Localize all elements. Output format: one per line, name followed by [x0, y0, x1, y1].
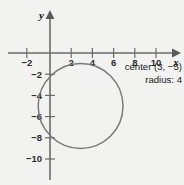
y-axis-arrow-icon	[46, 10, 55, 19]
y-axis-label: y	[37, 9, 44, 21]
x-tick-label-2: 2	[69, 57, 74, 68]
y-tick-label--10: −10	[26, 153, 42, 164]
x-tick-label--2: −2	[21, 57, 32, 68]
graph-canvas: −2 2 4 6 8 10 −2 −4 −6 −8 −10 y x	[0, 0, 184, 185]
center-annotation: center (3, −5)	[125, 61, 182, 74]
x-tick-label-6: 6	[111, 57, 116, 68]
y-tick-label--8: −8	[31, 132, 42, 143]
coordinate-plane-figure: −2 2 4 6 8 10 −2 −4 −6 −8 −10 y x center…	[0, 0, 184, 185]
radius-annotation: radius: 4	[145, 74, 182, 87]
circle-graph	[38, 64, 123, 149]
y-tick-label--2: −2	[31, 69, 42, 80]
